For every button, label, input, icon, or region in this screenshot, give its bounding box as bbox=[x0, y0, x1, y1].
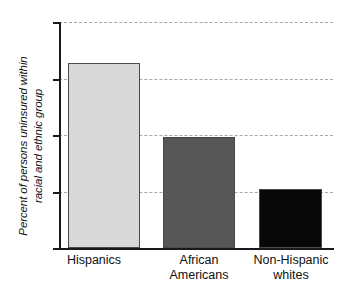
x-label-non-hispanic-whites: Non-Hispanic whites bbox=[240, 253, 342, 283]
bar-chart-figure: Percent of persons uninsured within raci… bbox=[0, 0, 347, 295]
y-tick-mark-30 bbox=[53, 79, 59, 81]
x-label-hispanics-line-1: Hispanics bbox=[44, 253, 144, 268]
gridline-40 bbox=[59, 22, 333, 23]
y-tick-mark-20 bbox=[53, 135, 59, 137]
y-axis-title: Percent of persons uninsured within raci… bbox=[14, 31, 48, 261]
x-label-african-americans-line-2: Americans bbox=[149, 268, 249, 283]
x-label-african-americans-line-1: African bbox=[149, 253, 249, 268]
x-label-non-hispanic-whites-line-2: whites bbox=[240, 268, 342, 283]
x-label-non-hispanic-whites-line-1: Non-Hispanic bbox=[240, 253, 342, 268]
y-tick-mark-10 bbox=[53, 192, 59, 194]
x-label-african-americans: African Americans bbox=[149, 253, 249, 283]
bar-african-americans bbox=[163, 137, 235, 248]
y-tick-mark-40 bbox=[53, 22, 59, 24]
y-axis-line bbox=[59, 22, 61, 249]
y-axis-title-line-1: Percent of persons uninsured within bbox=[16, 56, 31, 235]
x-label-hispanics: Hispanics bbox=[44, 253, 144, 268]
bar-non-hispanic-whites bbox=[259, 189, 322, 248]
plot-area bbox=[59, 22, 333, 248]
bar-hispanics bbox=[68, 63, 140, 248]
y-tick-mark-0 bbox=[53, 248, 59, 250]
y-axis-title-line-2: racial and ethnic group bbox=[31, 89, 46, 203]
x-axis-line bbox=[59, 248, 334, 250]
